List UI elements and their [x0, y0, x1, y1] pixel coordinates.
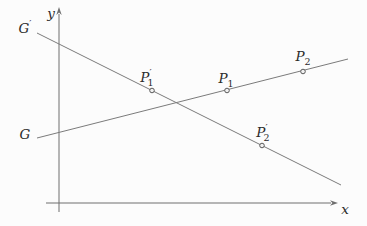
y-axis-arrowhead: [56, 7, 61, 15]
point-p1-prime-label: P′1: [140, 68, 153, 88]
y-axis-label-base: y: [47, 5, 55, 21]
figure-canvas: xyG′GP′1P1P2P′2: [0, 0, 367, 226]
point-p2-marker: [301, 69, 306, 74]
line-g-label: G: [20, 128, 31, 142]
x-axis-arrowhead: [330, 200, 338, 205]
point-p2-prime-marker: [260, 143, 265, 148]
point-p2-prime-label-subscript: 2: [264, 132, 270, 143]
y-axis-label: y: [47, 7, 55, 21]
point-p1-marker: [225, 88, 230, 93]
point-p1-label-subscript: 1: [228, 78, 234, 89]
point-p2-label-subscript: 2: [305, 56, 311, 67]
line-g-prime-label-base: G: [19, 20, 30, 36]
line-g-label-base: G: [20, 126, 31, 142]
line-g-prime-label-prime: ′: [29, 18, 31, 29]
diagram-svg: [0, 0, 367, 226]
point-p1-prime-label-subscript: 1: [148, 77, 154, 88]
line-g-prime-label: G′: [19, 19, 32, 36]
point-p1-prime-marker: [150, 88, 155, 93]
point-p2-label: P2: [295, 50, 310, 67]
x-axis-label: x: [341, 203, 349, 217]
point-p2-prime-label: P′2: [256, 123, 269, 143]
x-axis-label-base: x: [341, 201, 349, 217]
point-p2-label-base: P: [295, 48, 304, 64]
point-p1-label-base: P: [218, 70, 227, 86]
point-p1-label: P1: [218, 72, 233, 89]
